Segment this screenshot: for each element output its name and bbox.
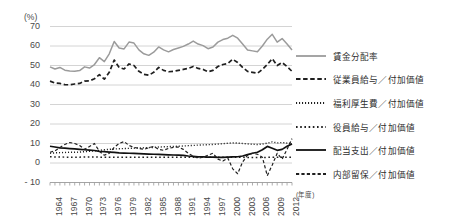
series-line — [50, 59, 292, 85]
legend-item-label: 内部留保／付加価値 — [333, 168, 415, 180]
x-axis-tick-label: 1982 — [143, 196, 153, 215]
x-axis-tick-label: 1979 — [128, 196, 138, 215]
x-axis-tick-label: 2003 — [247, 196, 257, 215]
legend-line-swatch — [296, 98, 326, 108]
legend-item-5[interactable]: 配当支出／付加価値 — [296, 138, 454, 162]
x-axis-tick-label: 2009 — [276, 196, 286, 215]
x-axis-tick-label: 1997 — [217, 196, 227, 215]
chart-legend: 賃金分配率従業員給与／付加価値福利厚生費／付加価値役員給与／付加価値配当支出／付… — [296, 44, 454, 186]
legend-line-swatch — [296, 169, 326, 179]
legend-item-label: 従業員給与／付加価値 — [333, 73, 424, 85]
legend-item-label: 配当支出／付加価値 — [333, 144, 415, 156]
y-axis-tick-label: 10 — [14, 138, 40, 148]
x-axis-tick-label: 1988 — [173, 196, 183, 215]
x-axis-tick-label: 1985 — [158, 196, 168, 215]
y-axis-tick-label: - 10 — [14, 177, 40, 187]
y-axis-tick-label: 40 — [14, 79, 40, 89]
x-axis-tick-label: 2000 — [232, 196, 242, 215]
legend-item-3[interactable]: 福利厚生費／付加価値 — [296, 91, 454, 115]
y-axis-tick-label: 0 — [14, 157, 40, 167]
x-axis-unit-label: (年度) — [296, 189, 314, 199]
legend-item-label: 賃金分配率 — [333, 50, 379, 62]
y-axis-tick-label: 30 — [14, 99, 40, 109]
y-axis-tick-label: 60 — [14, 40, 40, 50]
legend-line-swatch — [296, 122, 326, 132]
legend-line-swatch — [296, 145, 326, 155]
x-axis-tick-label: 1994 — [202, 196, 212, 215]
series-line — [50, 157, 292, 158]
x-axis-tick-label: 2012 — [291, 196, 301, 215]
legend-line-swatch — [296, 74, 326, 84]
x-axis-tick-label: 1973 — [98, 196, 108, 215]
legend-item-4[interactable]: 役員給与／付加価値 — [296, 115, 454, 139]
y-axis-tick-label: 70 — [14, 21, 40, 31]
legend-item-2[interactable]: 従業員給与／付加価値 — [296, 68, 454, 92]
wage-distribution-line-chart: (%) 706050403020100- 10 1964196719701973… — [0, 0, 454, 224]
legend-item-6[interactable]: 内部留保／付加価値 — [296, 162, 454, 186]
series-line — [50, 144, 292, 157]
series-lines — [50, 34, 292, 175]
x-axis-tick-label: 1967 — [69, 196, 79, 215]
y-axis-tick-label: 20 — [14, 118, 40, 128]
legend-line-swatch — [296, 51, 326, 61]
legend-item-1[interactable]: 賃金分配率 — [296, 44, 454, 68]
x-axis-tick-label: 2006 — [261, 196, 271, 215]
x-axis-tick-label: 1976 — [113, 196, 123, 215]
x-axis-tick-label: 1991 — [187, 196, 197, 215]
y-axis-tick-label: 50 — [14, 60, 40, 70]
series-line — [50, 139, 292, 176]
x-axis-tick-label: 1964 — [54, 196, 64, 215]
legend-item-label: 役員給与／付加価値 — [333, 121, 415, 133]
x-axis-tick-label: 1970 — [84, 196, 94, 215]
legend-item-label: 福利厚生費／付加価値 — [333, 97, 424, 109]
